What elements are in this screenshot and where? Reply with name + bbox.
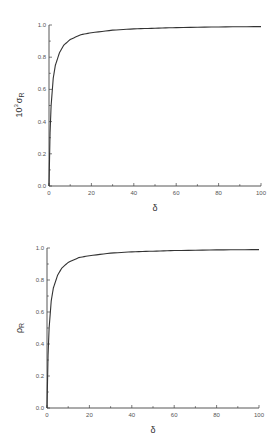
x-axis-label: δ (152, 203, 157, 213)
y-axis-label: ρR (14, 323, 25, 333)
y-tick-label: 1.0 (38, 22, 47, 28)
x-tick-label: 100 (254, 412, 265, 418)
y-axis-label: 103σR (13, 93, 25, 118)
figure: 0.00.20.40.60.81.0020406080100δ103σR 0.0… (0, 0, 280, 446)
y-tick-label: 0.4 (36, 341, 45, 347)
chart-top: 0.00.20.40.60.81.0020406080100δ103σR (13, 22, 267, 213)
x-tick-label: 40 (128, 412, 135, 418)
y-tick-label: 0.2 (36, 373, 45, 379)
y-tick-label: 0.6 (38, 86, 47, 92)
y-tick-label: 0.6 (36, 309, 45, 315)
chart-bottom: 0.00.20.40.60.81.0020406080100δρR (14, 245, 265, 435)
y-tick-label: 0.0 (38, 183, 47, 189)
y-tick-label: 0.8 (38, 54, 47, 60)
y-tick-label: 0.8 (36, 277, 45, 283)
x-tick-label: 60 (171, 412, 178, 418)
x-tick-label: 60 (173, 190, 180, 196)
x-tick-label: 80 (215, 190, 222, 196)
x-tick-label: 80 (213, 412, 220, 418)
y-tick-label: 1.0 (36, 245, 45, 251)
x-tick-label: 40 (130, 190, 137, 196)
y-tick-label: 0.4 (38, 119, 47, 125)
data-line (47, 250, 259, 408)
y-tick-label: 0.2 (38, 151, 47, 157)
x-tick-label: 20 (86, 412, 93, 418)
x-tick-label: 100 (256, 190, 267, 196)
data-line (49, 27, 261, 186)
y-tick-label: 0.0 (36, 405, 45, 411)
x-axis-label: δ (150, 425, 155, 435)
x-tick-label: 0 (47, 190, 51, 196)
x-tick-label: 0 (45, 412, 49, 418)
x-tick-label: 20 (88, 190, 95, 196)
